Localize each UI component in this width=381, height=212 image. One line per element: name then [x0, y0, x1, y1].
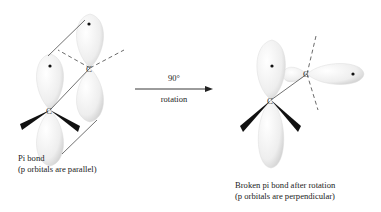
rotated-p-orbital-right-lobe: [307, 64, 364, 85]
left-caption: Pi bond (p orbitals are parallel): [18, 153, 97, 175]
atom-label-c: C: [86, 64, 92, 74]
front-p-orbital-top-lobe: [37, 54, 64, 110]
right-caption: Broken pi bond after rotation (p orbital…: [235, 180, 335, 202]
electron-dot: [48, 64, 51, 67]
right-caption-subtitle: (p orbitals are perpendicular): [235, 191, 335, 202]
broken-pi-bond-figure: C C: [240, 36, 364, 168]
arrow-label-rotation: rotation: [161, 94, 188, 104]
pi-bond-figure: C C: [20, 14, 124, 166]
vertical-p-orbital-top-lobe: [257, 40, 286, 100]
arrowhead-icon: [205, 86, 213, 92]
atom-label-c: C: [303, 69, 309, 79]
rotation-arrow: 90° rotation: [135, 73, 213, 104]
electron-dot: [351, 72, 354, 75]
left-caption-title: Pi bond: [18, 153, 97, 164]
electron-dot: [87, 22, 90, 25]
left-caption-subtitle: (p orbitals are parallel): [18, 164, 97, 175]
arrow-label-angle: 90°: [168, 73, 180, 83]
back-p-orbital-bottom-lobe: [77, 68, 104, 122]
atom-label-c: C: [46, 106, 52, 116]
right-caption-title: Broken pi bond after rotation: [235, 180, 335, 191]
atom-label-c: C: [267, 96, 273, 106]
electron-dot: [270, 64, 273, 67]
back-p-orbital-top-lobe: [77, 14, 104, 68]
